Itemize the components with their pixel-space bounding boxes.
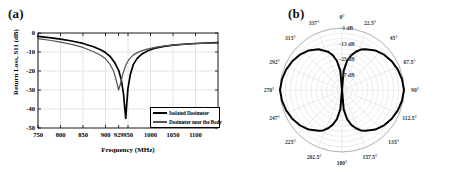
legend-entry-body: Dosimeter near the Body [153, 118, 217, 126]
x-tick-label: 1050 [162, 131, 184, 138]
y-tick-label: -10 [19, 48, 35, 55]
polar-angle-label: 157.5° [363, 154, 378, 160]
legend-swatch-body [153, 121, 167, 123]
polar-angle-label: 202.5° [307, 154, 322, 160]
polar-radial-label: -25 dB [339, 56, 354, 62]
y-tick-label: 0 [19, 29, 35, 36]
x-tick-label: 1000 [140, 131, 162, 138]
legend-entry-isolated: Isolated Dosimeter [153, 109, 217, 117]
panel-a-return-loss: (a) Return Loss, S11 (dB) Frequency (MHz… [0, 0, 232, 173]
x-tick-label: 750 [27, 131, 49, 138]
y-tick-label: -20 [19, 67, 35, 74]
polar-angle-label: 225° [285, 139, 296, 145]
polar-angle-label: 0° [339, 14, 344, 20]
y-tick-label: -40 [19, 105, 35, 112]
x-tick-label: 950 [117, 131, 139, 138]
polar-angle-label: 270° [264, 87, 275, 93]
figure-container: (a) Return Loss, S11 (dB) Frequency (MHz… [0, 0, 464, 173]
legend-label-isolated: Isolated Dosimeter [169, 110, 209, 116]
polar-angle-label: 112.5° [402, 115, 417, 121]
x-tick-label: 800 [50, 131, 72, 138]
legend: Isolated Dosimeter Dosimeter near the Bo… [150, 107, 220, 128]
polar-angle-label: 135° [388, 139, 399, 145]
polar-angle-label: 90° [411, 87, 419, 93]
x-tick-label: 850 [72, 131, 94, 138]
y-tick-label: -50 [19, 124, 35, 131]
polar-angle-label: 45° [390, 35, 398, 41]
polar-angle-label: 180° [337, 160, 348, 166]
x-axis-title: Frequency (MHz) [38, 146, 218, 154]
x-tick-label: 1100 [185, 131, 207, 138]
panel-b-radiation-pattern: (b) 0°22.5°45°67.5°90°112.5°135°157.5°18… [232, 0, 464, 173]
legend-label-body: Dosimeter near the Body [169, 119, 222, 125]
polar-angle-label: 22.5° [364, 20, 376, 26]
polar-angle-label: 67.5° [403, 59, 415, 65]
polar-radial-label: -37 dB [339, 72, 354, 78]
polar-angle-label: 247° [269, 115, 280, 121]
legend-swatch-isolated [153, 112, 167, 114]
polar-angle-label: 292° [269, 59, 280, 65]
polar-radial-label: -1 dB [341, 25, 353, 31]
polar-angle-label: 337° [309, 20, 320, 26]
y-tick-label: -30 [19, 86, 35, 93]
polar-radial-label: -13 dB [339, 41, 354, 47]
polar-angle-label: 315° [285, 35, 296, 41]
